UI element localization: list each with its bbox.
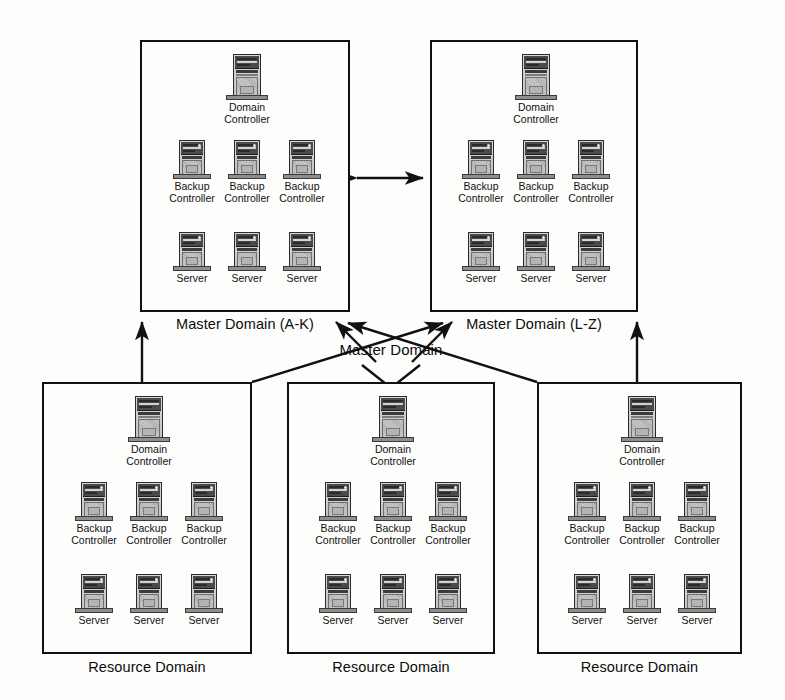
node-label: Server (554, 273, 628, 285)
server-tower-icon (523, 140, 549, 179)
server-tower-icon (136, 482, 162, 521)
server-tower-icon (435, 482, 461, 521)
server-tower-icon (684, 482, 710, 521)
server-tower-icon (191, 482, 217, 521)
node-label: Backup Controller (265, 181, 339, 204)
server-tower-icon (468, 232, 494, 271)
node-label: Server (265, 273, 339, 285)
node-label: Domain Controller (499, 102, 573, 125)
node-backup-controller[interactable]: Backup Controller (660, 482, 734, 546)
node-domain-controller[interactable]: Domain Controller (112, 396, 186, 467)
server-tower-icon (289, 232, 315, 271)
domain-caption-master-a-k: Master Domain (A-K) (140, 316, 350, 332)
node-backup-controller[interactable]: Backup Controller (411, 482, 485, 546)
server-tower-icon (81, 574, 107, 613)
server-tower-icon (684, 574, 710, 613)
node-label: Server (167, 615, 241, 627)
server-tower-icon (191, 574, 217, 613)
server-tower-icon (629, 482, 655, 521)
node-domain-controller[interactable]: Domain Controller (356, 396, 430, 467)
domain-caption-resource-3: Resource Domain (537, 659, 742, 675)
node-domain-controller[interactable]: Domain Controller (605, 396, 679, 467)
node-server[interactable]: Server (167, 574, 241, 627)
node-server[interactable]: Server (554, 232, 628, 285)
node-label: Backup Controller (167, 523, 241, 546)
center-label-master-domain: Master Domain (311, 341, 471, 358)
domain-box-resource-2[interactable]: Domain Controller Backup Controller (287, 382, 495, 654)
node-label: Server (660, 615, 734, 627)
server-tower-icon (522, 54, 550, 100)
server-tower-icon (468, 140, 494, 179)
domain-caption-resource-1: Resource Domain (42, 659, 252, 675)
server-tower-icon (325, 574, 351, 613)
node-label: Backup Controller (660, 523, 734, 546)
server-tower-icon (379, 396, 407, 442)
server-tower-icon (578, 232, 604, 271)
server-tower-icon (179, 232, 205, 271)
node-label: Domain Controller (605, 444, 679, 467)
node-label: Backup Controller (411, 523, 485, 546)
server-tower-icon (136, 574, 162, 613)
server-tower-icon (135, 396, 163, 442)
node-server[interactable]: Server (660, 574, 734, 627)
domain-caption-master-l-z: Master Domain (L-Z) (430, 316, 638, 332)
node-backup-controller[interactable]: Backup Controller (554, 140, 628, 204)
node-backup-controller[interactable]: Backup Controller (265, 140, 339, 204)
node-label: Domain Controller (112, 444, 186, 467)
server-tower-icon (380, 482, 406, 521)
server-tower-icon (574, 574, 600, 613)
node-server[interactable]: Server (411, 574, 485, 627)
domain-box-resource-1[interactable]: Domain Controller Backup Controller (42, 382, 252, 654)
domain-box-resource-3[interactable]: Domain Controller Backup Controller (537, 382, 742, 654)
server-tower-icon (578, 140, 604, 179)
server-tower-icon (435, 574, 461, 613)
server-tower-icon (234, 232, 260, 271)
node-label: Backup Controller (554, 181, 628, 204)
server-tower-icon (628, 396, 656, 442)
server-tower-icon (81, 482, 107, 521)
server-tower-icon (179, 140, 205, 179)
node-domain-controller[interactable]: Domain Controller (499, 54, 573, 125)
node-label: Domain Controller (210, 102, 284, 125)
domain-box-master-a-k[interactable]: Domain Controller Backup Controller (140, 40, 350, 312)
server-tower-icon (629, 574, 655, 613)
server-tower-icon (289, 140, 315, 179)
domain-box-master-l-z[interactable]: Domain Controller Backup Controller (430, 40, 638, 312)
node-label: Domain Controller (356, 444, 430, 467)
server-tower-icon (380, 574, 406, 613)
node-domain-controller[interactable]: Domain Controller (210, 54, 284, 125)
diagram-canvas: Domain Controller Backup Controller (0, 0, 785, 700)
node-label: Server (411, 615, 485, 627)
server-tower-icon (574, 482, 600, 521)
server-tower-icon (233, 54, 261, 100)
domain-caption-resource-2: Resource Domain (287, 659, 495, 675)
node-server[interactable]: Server (265, 232, 339, 285)
node-backup-controller[interactable]: Backup Controller (167, 482, 241, 546)
server-tower-icon (325, 482, 351, 521)
server-tower-icon (234, 140, 260, 179)
server-tower-icon (523, 232, 549, 271)
